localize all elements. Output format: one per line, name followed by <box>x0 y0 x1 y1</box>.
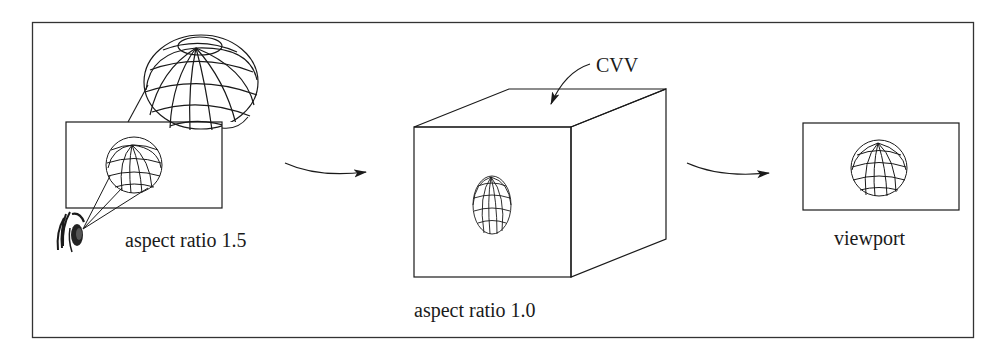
viewport-sphere-icon <box>851 140 907 196</box>
small-sphere-icon <box>106 137 162 193</box>
eye-icon <box>58 212 84 252</box>
diagram-canvas: aspect ratio 1.5 CVV aspect ratio 1.0 vi… <box>0 0 1008 356</box>
cvv-cube <box>414 89 666 277</box>
label-viewport: viewport <box>834 228 905 248</box>
cvv-callout-arrow <box>551 64 590 104</box>
squashed-sphere-icon <box>473 176 511 234</box>
label-aspect-ratio-1-5: aspect ratio 1.5 <box>125 230 247 250</box>
arrow-cvv-to-viewport <box>687 163 769 174</box>
stage-world-window <box>58 35 258 252</box>
label-aspect-ratio-1-0: aspect ratio 1.0 <box>414 300 536 320</box>
large-sphere-icon <box>144 35 258 130</box>
arrow-window-to-cvv <box>285 163 366 174</box>
label-cvv: CVV <box>596 55 638 75</box>
